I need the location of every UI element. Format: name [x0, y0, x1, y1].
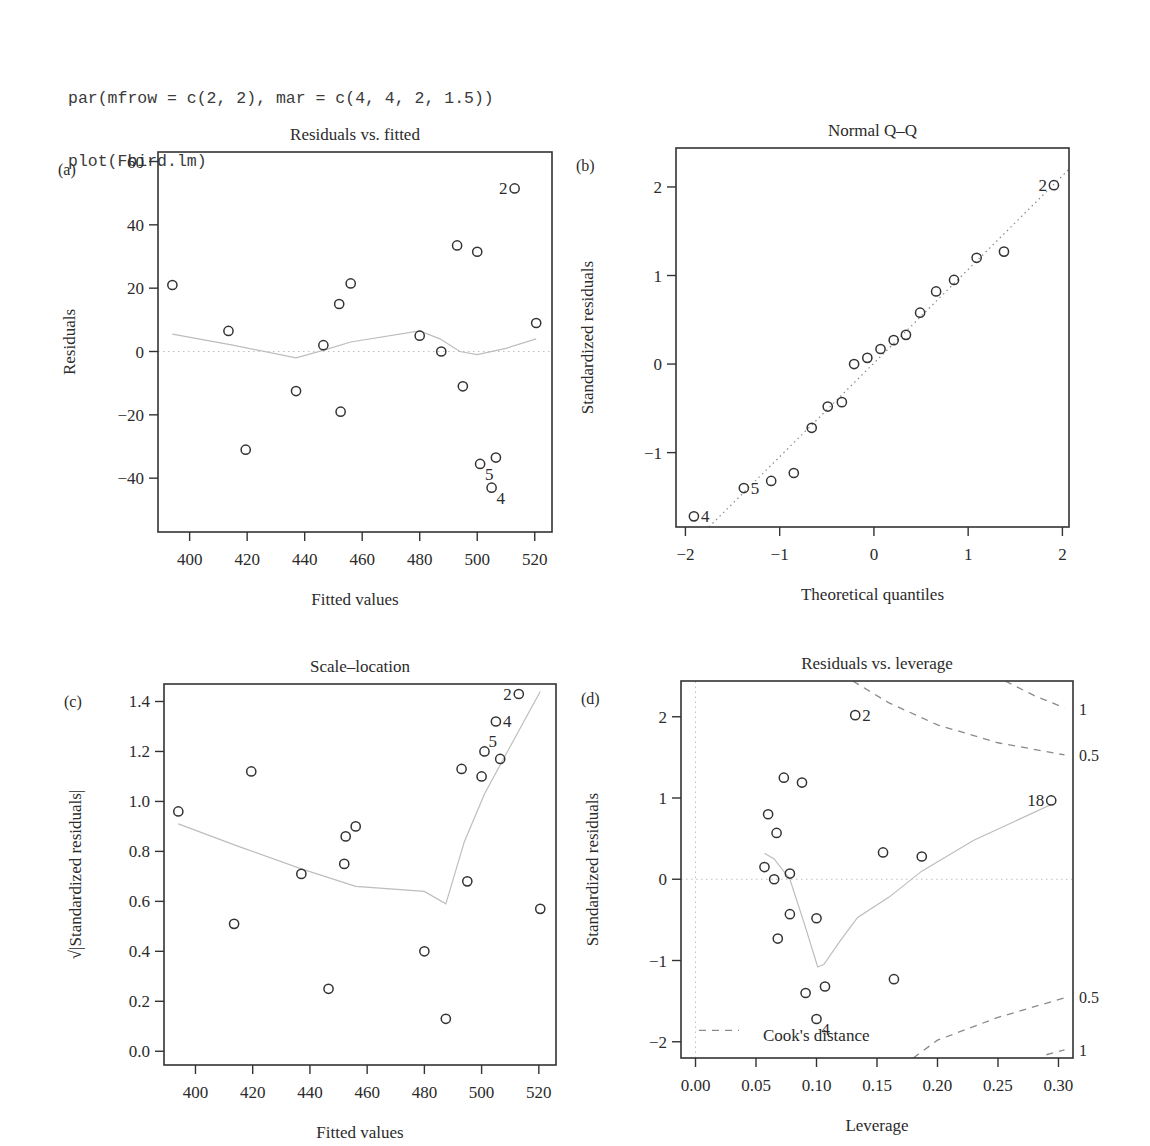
data-point — [889, 975, 898, 984]
data-point — [224, 326, 233, 335]
lowess-smooth-line — [178, 691, 540, 903]
x-tick-label: 0.00 — [681, 1076, 711, 1095]
data-point — [510, 184, 519, 193]
data-point — [932, 287, 941, 296]
data-point — [772, 828, 781, 837]
point-id-label: 5 — [751, 479, 760, 498]
x-tick-label: 520 — [526, 1083, 552, 1102]
data-point — [837, 398, 846, 407]
panel-title: Scale–location — [310, 657, 411, 676]
data-point — [972, 253, 981, 262]
data-point — [291, 386, 300, 395]
data-point — [999, 247, 1008, 256]
data-point — [1047, 796, 1056, 805]
data-point — [319, 341, 328, 350]
lowess-smooth-line — [764, 805, 1051, 968]
plot-frame — [676, 148, 1069, 527]
y-tick-label: −1 — [644, 444, 662, 463]
data-point — [476, 459, 485, 468]
x-tick-label: 480 — [412, 1083, 438, 1102]
panel-title: Residuals vs. leverage — [801, 654, 953, 673]
x-tick-label: 440 — [292, 550, 318, 569]
point-id-label: 5 — [485, 465, 494, 484]
cooks-contour-label: 1 — [1079, 701, 1087, 718]
cooks-legend-label: Cook's distance — [763, 1026, 869, 1045]
y-tick-label: 1 — [654, 267, 663, 286]
data-point — [1049, 181, 1058, 190]
data-point — [767, 476, 776, 485]
cooks-contour-label: 0.5 — [1079, 747, 1099, 764]
x-tick-label: 440 — [297, 1083, 323, 1102]
data-point — [760, 862, 769, 871]
x-tick-label: 0.15 — [862, 1076, 892, 1095]
data-point — [917, 852, 926, 861]
data-point — [420, 947, 429, 956]
data-point — [457, 764, 466, 773]
y-tick-label: 60 — [127, 153, 144, 172]
cooks-distance-contour — [913, 998, 1064, 1058]
point-id-label: 4 — [701, 507, 710, 526]
data-point — [341, 832, 350, 841]
data-point — [297, 869, 306, 878]
x-axis-label: Leverage — [845, 1116, 908, 1135]
x-tick-label: 420 — [240, 1083, 266, 1102]
data-point — [168, 280, 177, 289]
y-tick-label: 1.0 — [129, 792, 150, 811]
data-point — [820, 982, 829, 991]
y-axis-label: Standardized residuals — [578, 261, 597, 414]
data-point — [901, 330, 910, 339]
panel-residuals-vs-fitted: Residuals vs. fitted(a)Fitted valuesResi… — [58, 125, 552, 609]
plot-area — [178, 691, 540, 903]
plot-area — [709, 169, 1069, 527]
data-point — [850, 359, 859, 368]
x-tick-label: 460 — [349, 550, 375, 569]
y-tick-label: −2 — [649, 1033, 667, 1052]
x-tick-label: 500 — [464, 550, 490, 569]
data-point — [536, 904, 545, 913]
point-id-label: 2 — [1038, 176, 1047, 195]
y-axis-label: Residuals — [60, 309, 79, 375]
data-point — [801, 988, 810, 997]
cooks-contour-label: 0.5 — [1079, 989, 1099, 1006]
y-tick-label: 0.2 — [129, 992, 150, 1011]
data-point — [415, 331, 424, 340]
plot-area — [158, 331, 552, 358]
regression-diagnostic-plots: Residuals vs. fitted(a)Fitted valuesResi… — [0, 0, 1150, 1146]
y-tick-label: 0.4 — [129, 942, 151, 961]
y-tick-label: 1.4 — [129, 692, 151, 711]
data-point — [812, 914, 821, 923]
y-tick-label: 40 — [127, 216, 144, 235]
point-id-label: 2 — [862, 706, 871, 725]
data-point — [247, 767, 256, 776]
data-point — [851, 711, 860, 720]
panel-letter: (a) — [58, 161, 76, 179]
y-tick-label: 0.6 — [129, 892, 150, 911]
y-tick-label: 2 — [654, 178, 663, 197]
qq-reference-line — [709, 169, 1069, 527]
y-tick-label: 0 — [136, 343, 145, 362]
x-tick-label: 480 — [407, 550, 433, 569]
x-tick-label: 0.20 — [923, 1076, 953, 1095]
data-point — [351, 822, 360, 831]
data-point — [174, 807, 183, 816]
data-point — [340, 859, 349, 868]
y-tick-label: 0.0 — [129, 1042, 150, 1061]
data-point — [458, 382, 467, 391]
cooks-contour-label: 1 — [1079, 1042, 1087, 1059]
y-tick-label: −1 — [649, 952, 667, 971]
y-tick-label: −40 — [117, 469, 144, 488]
data-point — [463, 877, 472, 886]
x-axis-label: Fitted values — [311, 590, 398, 609]
x-tick-label: −1 — [771, 545, 789, 564]
panel-letter: (b) — [576, 157, 595, 175]
data-point — [863, 353, 872, 362]
cooks-distance-contour — [1046, 1050, 1064, 1055]
x-tick-label: 0.10 — [802, 1076, 832, 1095]
data-point — [773, 934, 782, 943]
data-point — [336, 407, 345, 416]
data-point — [689, 512, 698, 521]
point-id-label: 4 — [503, 712, 512, 731]
y-tick-label: 1.2 — [129, 742, 150, 761]
x-tick-label: 400 — [183, 1083, 209, 1102]
data-point — [335, 299, 344, 308]
